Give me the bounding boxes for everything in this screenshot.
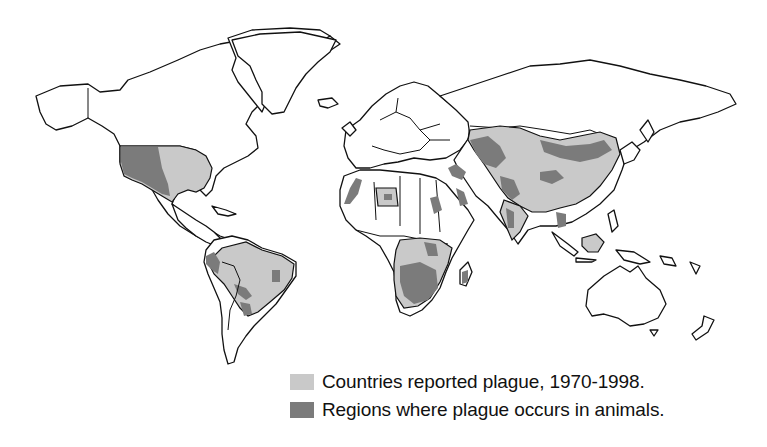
legend-swatch-reported [290,374,314,390]
oceania [586,266,714,340]
caribbean [212,206,236,216]
legend-item-reported: Countries reported plague, 1970-1998. [290,368,665,396]
south-america [204,236,296,364]
map-legend: Countries reported plague, 1970-1998. Re… [290,368,665,424]
legend-label-animals: Regions where plague occurs in animals. [322,399,665,421]
iceland [318,98,338,108]
legend-swatch-animals [290,402,314,418]
legend-item-animals: Regions where plague occurs in animals. [290,396,665,424]
legend-label-reported: Countries reported plague, 1970-1998. [322,371,645,393]
usa-shading [120,146,212,202]
